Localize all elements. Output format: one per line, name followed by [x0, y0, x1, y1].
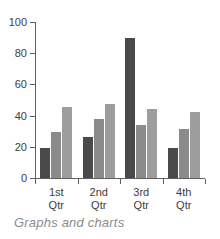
x-category-label-line: 3rd: [120, 186, 163, 199]
x-category-label: 4thQtr: [163, 186, 206, 211]
x-category-label-line: Qtr: [35, 199, 78, 212]
figure-caption: Graphs and charts: [14, 215, 124, 230]
bar: [190, 112, 200, 178]
x-category-label: 2ndQtr: [78, 186, 121, 211]
x-category-label: 3rdQtr: [120, 186, 163, 211]
bar: [105, 104, 115, 178]
bar: [40, 148, 50, 178]
x-category-label-line: 1st: [35, 186, 78, 199]
bar: [168, 148, 178, 178]
x-category-label-line: 2nd: [78, 186, 121, 199]
plot-area: 020406080100 1stQtr2ndQtr3rdQtr4thQtr: [0, 0, 220, 212]
bar-series-layer: [0, 0, 220, 212]
bar: [147, 109, 157, 178]
bar: [125, 38, 135, 178]
x-category-label-line: Qtr: [163, 199, 206, 212]
bar: [62, 107, 72, 178]
x-category-label-line: 4th: [163, 186, 206, 199]
bar: [179, 129, 189, 178]
bar: [51, 132, 61, 178]
x-category-label: 1stQtr: [35, 186, 78, 211]
x-category-label-line: Qtr: [120, 199, 163, 212]
chart-figure: 020406080100 1stQtr2ndQtr3rdQtr4thQtr Gr…: [0, 0, 220, 239]
bar: [83, 137, 93, 178]
bar: [136, 125, 146, 178]
x-category-label-line: Qtr: [78, 199, 121, 212]
bar: [94, 119, 104, 178]
